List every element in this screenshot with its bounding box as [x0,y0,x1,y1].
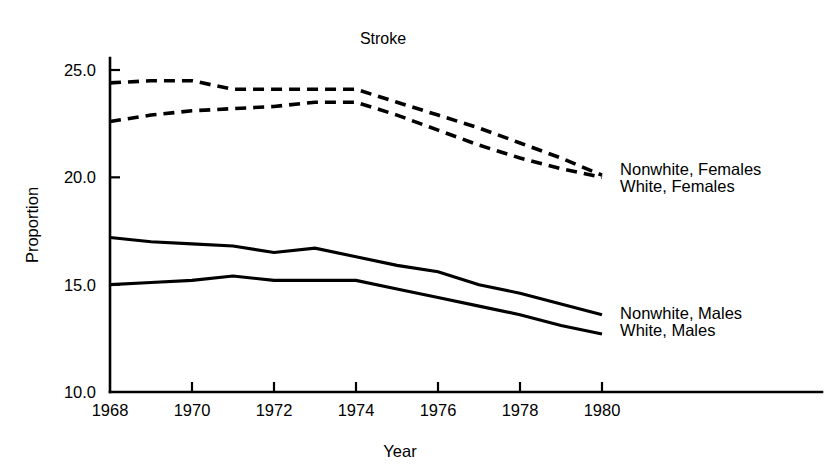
x-tick-label: 1970 [174,401,211,419]
series-label-white-females: White, Females [620,177,735,195]
x-tick-label: 1968 [92,401,129,419]
x-tick-label: 1978 [502,401,539,419]
y-tick-label: 10.0 [64,383,96,401]
stroke-proportion-line-chart: Stroke 10.015.020.025.0 1968197019721974… [0,0,835,476]
y-tick-label: 20.0 [64,168,96,186]
x-axis-ticks: 1968197019721974197619781980 [92,382,621,419]
y-tick-label: 25.0 [64,61,96,79]
chart-title: Stroke [360,30,406,47]
axes [110,58,822,392]
series-group [110,81,602,334]
y-axis-title: Proportion [23,187,41,263]
series-line-nonwhite-females [110,81,602,175]
series-labels: Nonwhite, FemalesWhite, FemalesNonwhite,… [620,160,761,339]
series-label-nonwhite-males: Nonwhite, Males [620,304,742,322]
x-tick-label: 1980 [584,401,621,419]
series-label-nonwhite-females: Nonwhite, Females [620,160,761,178]
y-axis-ticks: 10.015.020.025.0 [64,61,120,401]
series-line-white-males [110,276,602,334]
series-line-nonwhite-males [110,237,602,314]
x-tick-label: 1976 [420,401,457,419]
series-label-white-males: White, Males [620,321,715,339]
chart-container: Stroke 10.015.020.025.0 1968197019721974… [0,0,835,476]
series-line-white-females [110,102,602,177]
x-tick-label: 1974 [338,401,375,419]
y-tick-label: 15.0 [64,276,96,294]
x-axis-title: Year [383,442,417,460]
x-tick-label: 1972 [256,401,293,419]
